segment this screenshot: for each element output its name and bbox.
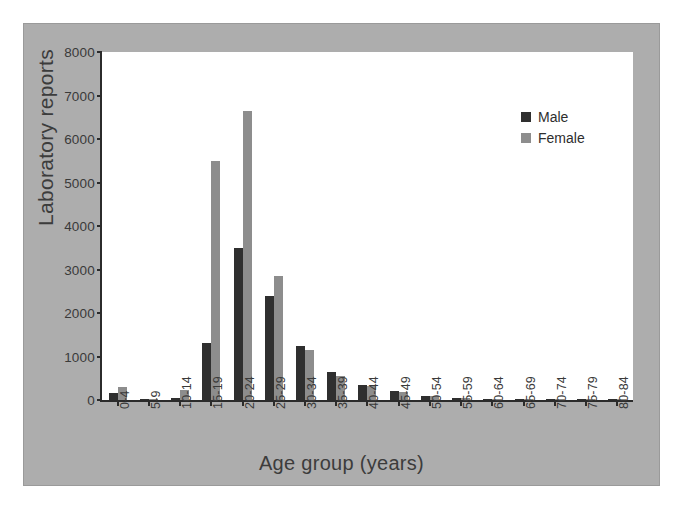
x-axis-tick-label: 35-39 bbox=[336, 376, 350, 409]
legend-item: Male bbox=[521, 109, 585, 125]
bar-group: 75-79 bbox=[571, 52, 602, 400]
bar-group: 35-39 bbox=[321, 52, 352, 400]
x-axis-tick-label: 5-9 bbox=[149, 390, 163, 409]
chart-page: Laboratory reports 010002000300040005000… bbox=[0, 0, 683, 509]
bar-group: 45-49 bbox=[383, 52, 414, 400]
bar-group: 30-34 bbox=[289, 52, 320, 400]
bar-group: 5-9 bbox=[133, 52, 164, 400]
bar-group: 50-54 bbox=[414, 52, 445, 400]
bar-group: 40-44 bbox=[352, 52, 383, 400]
x-axis-tick-label: 30-34 bbox=[305, 376, 319, 409]
bar-group: 60-64 bbox=[477, 52, 508, 400]
bar-group: 15-19 bbox=[196, 52, 227, 400]
bar-male bbox=[265, 296, 274, 400]
bar-group: 65-69 bbox=[508, 52, 539, 400]
legend-item: Female bbox=[521, 130, 585, 146]
y-axis-title: Laboratory reports bbox=[34, 49, 58, 226]
bar-female bbox=[211, 161, 220, 400]
legend-label: Male bbox=[538, 109, 568, 125]
bar-group: 25-29 bbox=[258, 52, 289, 400]
bar-male bbox=[327, 372, 336, 400]
x-axis-tick-label: 60-64 bbox=[492, 376, 506, 409]
x-axis-tick-label: 65-69 bbox=[524, 376, 538, 409]
bar-group: 0-4 bbox=[102, 52, 133, 400]
x-axis-tick-label: 55-59 bbox=[461, 376, 475, 409]
x-axis-tick-label: 0-4 bbox=[118, 390, 132, 409]
legend-swatch-male bbox=[521, 112, 531, 122]
x-axis-tick-label: 70-74 bbox=[555, 376, 569, 409]
bar-male bbox=[390, 391, 399, 400]
bar-group: 80-84 bbox=[602, 52, 633, 400]
x-axis-tick-label: 20-24 bbox=[243, 376, 257, 409]
x-axis-title: Age group (years) bbox=[24, 452, 659, 475]
bar-group: 70-74 bbox=[539, 52, 570, 400]
bar-group: 10-14 bbox=[164, 52, 195, 400]
figure-panel: Laboratory reports 010002000300040005000… bbox=[24, 24, 659, 485]
bar-male bbox=[296, 346, 305, 400]
bar-group: 20-24 bbox=[227, 52, 258, 400]
x-axis-tick-label: 10-14 bbox=[180, 376, 194, 409]
bar-female bbox=[243, 111, 252, 400]
x-axis-tick-label: 80-84 bbox=[617, 376, 631, 409]
x-axis-tick-label: 75-79 bbox=[586, 376, 600, 409]
x-axis-tick-label: 15-19 bbox=[211, 376, 225, 409]
legend-swatch-female bbox=[521, 133, 531, 143]
x-axis-tick-label: 45-49 bbox=[399, 376, 413, 409]
x-axis-tick-label: 40-44 bbox=[367, 376, 381, 409]
legend-label: Female bbox=[538, 130, 585, 146]
bar-series-container: 0-45-910-1415-1920-2425-2930-3435-3940-4… bbox=[102, 52, 633, 400]
bar-male bbox=[202, 343, 211, 400]
bar-male bbox=[234, 248, 243, 400]
plot-area: 010002000300040005000600070008000 0-45-9… bbox=[100, 52, 633, 402]
x-axis-tick-label: 50-54 bbox=[430, 376, 444, 409]
x-axis-tick-label: 25-29 bbox=[274, 376, 288, 409]
legend: MaleFemale bbox=[521, 109, 585, 151]
bar-group: 55-59 bbox=[446, 52, 477, 400]
